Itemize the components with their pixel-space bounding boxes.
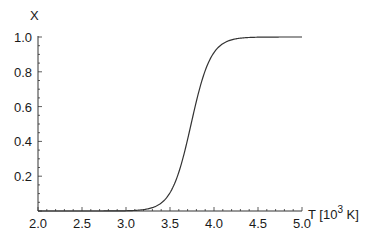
y-tick-label: 0.8 — [14, 65, 32, 80]
x-tick-label: 3.5 — [161, 216, 179, 231]
y-axis-title: X — [30, 8, 39, 23]
x-tick-label: 2.0 — [29, 216, 47, 231]
ticks — [38, 37, 302, 211]
tick-labels: 2.02.53.03.54.04.55.00.20.40.60.81.0 — [14, 30, 311, 231]
x-tick-label: 4.5 — [249, 216, 267, 231]
x-axis-title-rest: K] — [343, 207, 359, 222]
x-tick-label: 2.5 — [73, 216, 91, 231]
y-tick-label: 0.4 — [14, 134, 32, 149]
chart: 2.02.53.03.54.04.55.00.20.40.60.81.0 X T… — [0, 0, 385, 244]
axes — [38, 36, 302, 211]
x-tick-label: 4.0 — [205, 216, 223, 231]
x-axis-title-base: T [10 — [308, 207, 337, 222]
x-tick-label: 3.0 — [117, 216, 135, 231]
data-curve — [38, 37, 302, 211]
y-tick-label: 1.0 — [14, 30, 32, 45]
plot-area: 2.02.53.03.54.04.55.00.20.40.60.81.0 X T… — [0, 0, 385, 244]
x-axis-title: T [103 K] — [308, 204, 359, 222]
y-tick-label: 0.2 — [14, 169, 32, 184]
y-tick-label: 0.6 — [14, 100, 32, 115]
